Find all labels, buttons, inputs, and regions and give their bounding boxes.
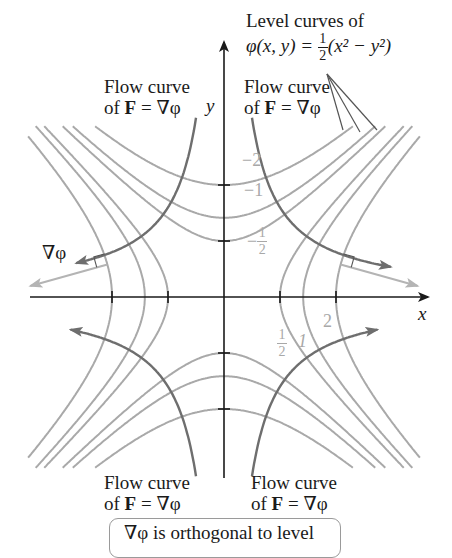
y-axis-label: y <box>206 95 214 117</box>
gradient-arrow <box>30 265 107 286</box>
flow-label-bottom-right: Flow curve of F = ∇φ <box>251 472 337 514</box>
level-label-neg1: −1 <box>244 180 263 201</box>
level-label-pos-half: 12 <box>277 328 287 359</box>
label-pointer-lines <box>327 74 377 132</box>
flow-curve <box>76 118 196 263</box>
phi-rhs: (x² − y²) <box>328 35 391 56</box>
level-label-neg2: −2 <box>242 150 261 171</box>
gradient-arrow <box>341 265 418 286</box>
phi-lhs: φ(x, y) = <box>246 35 318 56</box>
level-label-neg-half: −12 <box>247 226 267 257</box>
x-axis-label: x <box>418 303 426 325</box>
half-fraction: 12 <box>318 32 328 63</box>
flow-label-top-right: Flow curve of F = ∇φ <box>244 76 330 118</box>
level-label-pos1: 1 <box>298 331 307 352</box>
title-line1: Level curves of <box>246 10 364 31</box>
flow-label-bottom-left: Flow curve of F = ∇φ <box>104 472 190 514</box>
flow-label-top-left: Flow curve of F = ∇φ <box>104 76 190 118</box>
title-line2: φ(x, y) = 12(x² − y²) <box>246 32 391 63</box>
orthogonality-note: ∇φ is orthogonal to level <box>109 518 341 558</box>
gradient-label: ∇φ <box>42 242 66 263</box>
level-label-pos2: 2 <box>323 311 332 332</box>
